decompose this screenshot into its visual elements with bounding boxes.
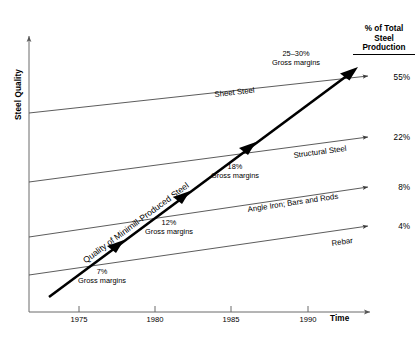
x-tick-label-1975: 1975 <box>63 316 95 325</box>
annotation-7-text: Gross margins <box>60 277 144 286</box>
x-tick-label-1985: 1985 <box>215 316 247 325</box>
share-value-angle-iron: 8% <box>378 183 410 193</box>
right-axis-title-line2: Steel <box>374 34 394 43</box>
right-axis-title: % of Total Steel Production <box>353 24 415 55</box>
share-value-rebar: 4% <box>378 222 410 232</box>
annotation-25-30-text: Gross margins <box>254 59 338 68</box>
annotation-gross-margin-25-30: 25–30% Gross margins <box>254 50 338 67</box>
series-line-sheet-steel <box>29 76 368 113</box>
y-axis-title: Steel Quality <box>14 69 24 120</box>
x-tick-label-1990: 1990 <box>292 316 324 325</box>
annotation-gross-margin-18: 18% Gross margins <box>193 163 277 180</box>
annotation-gross-margin-7: 7% Gross margins <box>60 268 144 285</box>
share-value-sheet-steel: 55% <box>378 73 410 83</box>
share-value-structural-steel: 22% <box>378 133 410 143</box>
steel-quality-chart: Steel Quality Time 1975 1980 1985 1990 %… <box>0 0 417 338</box>
annotation-gross-margin-12: 12% Gross margins <box>127 219 211 236</box>
right-axis-title-underline <box>353 54 415 55</box>
annotation-18-text: Gross margins <box>193 172 277 181</box>
right-axis-title-line1: % of Total <box>365 24 404 33</box>
x-tick-label-1980: 1980 <box>139 316 171 325</box>
x-axis-title: Time <box>330 314 349 324</box>
annotation-12-text: Gross margins <box>127 228 211 237</box>
right-axis-title-line3: Production <box>362 43 405 52</box>
